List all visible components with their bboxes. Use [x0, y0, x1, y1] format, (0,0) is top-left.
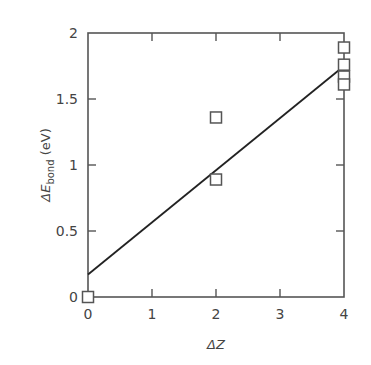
linear-fit-line	[88, 66, 344, 275]
square-marker	[211, 174, 222, 185]
x-tick-label: 4	[340, 306, 349, 322]
x-tick-label: 1	[148, 306, 157, 322]
y-tick-label: 1	[69, 157, 78, 173]
y-axis-ticks: 00.511.52	[56, 25, 344, 305]
data-markers	[83, 42, 350, 302]
plot-box	[88, 33, 344, 297]
square-marker	[339, 79, 350, 90]
y-tick-label: 0	[69, 289, 78, 305]
fit-line	[88, 66, 344, 275]
plot-frame	[88, 33, 344, 297]
x-tick-label: 0	[84, 306, 93, 322]
x-tick-label: 3	[276, 306, 285, 322]
square-marker	[339, 42, 350, 53]
y-tick-label: 1.5	[56, 91, 78, 107]
y-axis-title: ΔEbond (eV)	[38, 128, 56, 202]
scatter-chart: 01234 00.511.52 ΔZ ΔEbond (eV)	[0, 0, 371, 365]
y-tick-label: 2	[69, 25, 78, 41]
square-marker	[83, 292, 94, 303]
x-axis-title: ΔZ	[206, 337, 226, 352]
square-marker	[211, 112, 222, 123]
square-marker	[339, 59, 350, 70]
y-tick-label: 0.5	[56, 223, 78, 239]
x-tick-label: 2	[212, 306, 221, 322]
